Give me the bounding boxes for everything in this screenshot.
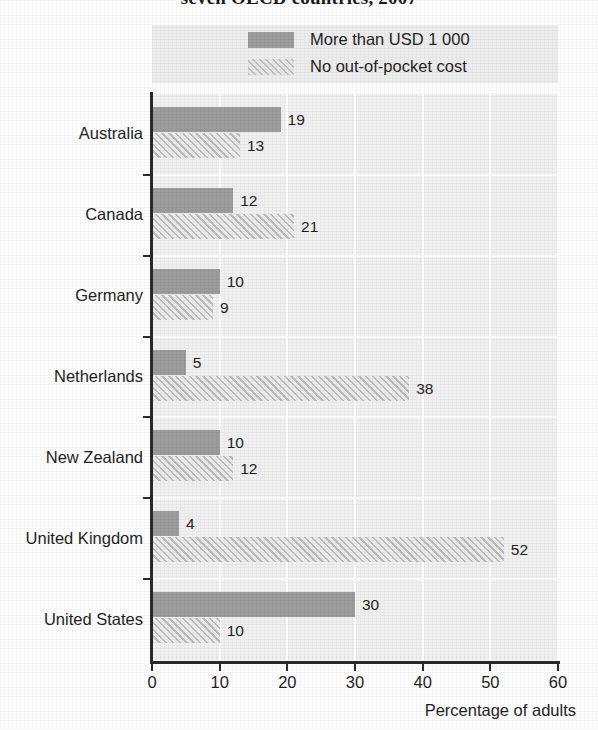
- x-axis-tick: [286, 663, 288, 671]
- legend-item-1: No out-of-pocket cost: [152, 52, 558, 81]
- category-label-united-states: United States: [3, 610, 143, 629]
- bar-value-label: 52: [511, 537, 528, 562]
- hatched-swatch-icon: [248, 59, 294, 75]
- bar-value-label: 19: [288, 107, 305, 132]
- bar-value-label: 12: [240, 188, 257, 213]
- bar-united-kingdom-series-1: [152, 537, 504, 562]
- x-axis-tick-label: 40: [403, 673, 443, 692]
- plot-area: 1913122110953810124523010: [152, 94, 558, 660]
- x-axis-tick-label: 10: [200, 673, 240, 692]
- x-axis-tick: [422, 663, 424, 671]
- gridline-horizontal: [152, 174, 558, 176]
- page-title: seven OECD countries, 2007: [0, 0, 598, 9]
- category-label-australia: Australia: [3, 124, 143, 143]
- bar-value-label: 21: [301, 214, 318, 239]
- x-axis-tick-label: 20: [267, 673, 307, 692]
- bar-canada-series-0: [152, 188, 233, 213]
- x-axis-title: Percentage of adults: [0, 701, 576, 720]
- category-label-germany: Germany: [3, 286, 143, 305]
- bar-united-states-series-0: [152, 592, 355, 617]
- bar-canada-series-1: [152, 214, 294, 239]
- x-axis-tick-label: 0: [132, 673, 172, 692]
- bar-value-label: 10: [227, 618, 244, 643]
- legend-label-1: No out-of-pocket cost: [310, 57, 467, 76]
- category-label-canada: Canada: [3, 205, 143, 224]
- bar-germany-series-0: [152, 269, 220, 294]
- gridline-horizontal: [152, 578, 558, 580]
- gridline-vertical: [489, 94, 491, 660]
- bar-value-label: 5: [193, 350, 202, 375]
- x-axis-tick: [557, 663, 559, 671]
- gridline-vertical: [557, 94, 559, 660]
- bar-australia-series-0: [152, 107, 281, 132]
- x-axis-tick: [219, 663, 221, 671]
- gridline-horizontal: [152, 336, 558, 338]
- bar-value-label: 12: [240, 456, 257, 481]
- y-axis-category-labels: AustraliaCanadaGermanyNetherlandsNew Zea…: [0, 94, 143, 660]
- category-label-netherlands: Netherlands: [3, 367, 143, 386]
- gridline-horizontal: [152, 255, 558, 257]
- category-label-new-zealand: New Zealand: [3, 448, 143, 467]
- y-axis-tick: [143, 255, 152, 257]
- x-axis-tick: [151, 663, 153, 671]
- gridline-horizontal: [152, 497, 558, 499]
- bar-value-label: 30: [362, 592, 379, 617]
- bar-germany-series-1: [152, 295, 213, 320]
- gridline-horizontal: [152, 416, 558, 418]
- bar-value-label: 9: [220, 295, 229, 320]
- solid-swatch-icon: [248, 32, 294, 48]
- bar-value-label: 10: [227, 430, 244, 455]
- bar-new-zealand-series-1: [152, 456, 233, 481]
- chart-legend: More than USD 1 000 No out-of-pocket cos…: [152, 25, 558, 83]
- y-axis-tick: [143, 497, 152, 499]
- x-axis-tick-label: 60: [538, 673, 578, 692]
- x-axis-tick: [489, 663, 491, 671]
- y-axis-tick: [143, 336, 152, 338]
- x-axis-tick: [354, 663, 356, 671]
- x-axis-tick-label: 50: [470, 673, 510, 692]
- legend-label-0: More than USD 1 000: [310, 30, 470, 49]
- bar-united-kingdom-series-0: [152, 511, 179, 536]
- bar-value-label: 13: [247, 133, 264, 158]
- y-axis-tick: [143, 578, 152, 580]
- category-label-united-kingdom: United Kingdom: [3, 529, 143, 548]
- bar-netherlands-series-0: [152, 350, 186, 375]
- x-axis-tick-label: 30: [335, 673, 375, 692]
- bar-united-states-series-1: [152, 618, 220, 643]
- bar-new-zealand-series-0: [152, 430, 220, 455]
- bar-value-label: 4: [186, 511, 195, 536]
- legend-item-0: More than USD 1 000: [152, 25, 558, 54]
- bar-value-label: 38: [416, 376, 433, 401]
- bar-australia-series-1: [152, 133, 240, 158]
- y-axis-tick: [143, 174, 152, 176]
- bar-netherlands-series-1: [152, 376, 409, 401]
- bar-value-label: 10: [227, 269, 244, 294]
- y-axis-tick: [143, 416, 152, 418]
